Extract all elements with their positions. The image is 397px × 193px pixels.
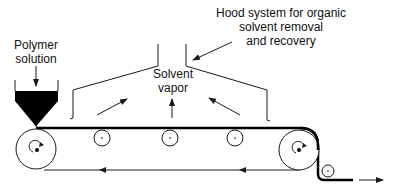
hood-system-label: Hood system for organic solvent removal … bbox=[206, 6, 356, 48]
return-arrow-left bbox=[99, 167, 106, 173]
idler-roller-3 bbox=[227, 130, 243, 146]
hopper bbox=[15, 80, 58, 127]
drive-roller-left bbox=[16, 129, 56, 169]
hood-label-line1: Hood system for organic bbox=[206, 6, 356, 20]
solvent-label-line2: vapor bbox=[144, 81, 202, 95]
polymer-solution-label: Polymer solution bbox=[4, 38, 68, 66]
drive-roller-right bbox=[279, 128, 319, 170]
solvent-vapor-label: Solvent vapor bbox=[144, 67, 202, 95]
vapor-arrow-right bbox=[209, 98, 240, 115]
idler-roller-2 bbox=[162, 130, 178, 146]
vapor-arrow-left bbox=[97, 99, 127, 115]
solvent-label-line1: Solvent bbox=[144, 67, 202, 81]
polymer-label-line2: solution bbox=[4, 52, 68, 66]
return-arrow-right bbox=[239, 167, 246, 173]
hood-label-line3: and recovery bbox=[206, 34, 356, 48]
guide-roller bbox=[322, 165, 334, 177]
polymer-label-line1: Polymer bbox=[4, 38, 68, 52]
hood-label-line2: solvent removal bbox=[206, 20, 356, 34]
idler-roller-1 bbox=[94, 130, 110, 146]
